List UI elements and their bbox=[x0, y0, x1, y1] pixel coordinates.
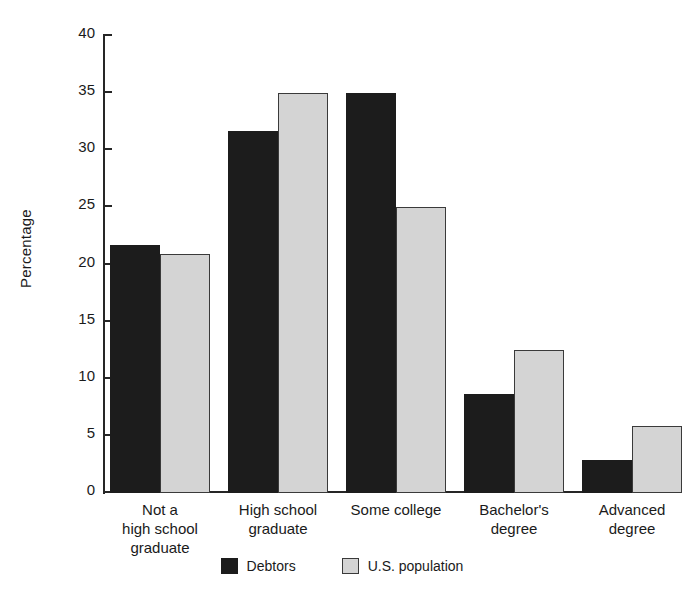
chart-legend: DebtorsU.S. population bbox=[0, 558, 684, 574]
bar-us-population bbox=[278, 93, 328, 493]
x-axis-label-line: Advanced bbox=[572, 500, 684, 519]
bar-debtors bbox=[346, 93, 396, 493]
bar-us-population bbox=[632, 426, 682, 493]
y-tick-label: 15 bbox=[78, 310, 95, 327]
y-tick-label: 20 bbox=[78, 253, 95, 270]
plot-area: 0510152025303540 bbox=[103, 36, 632, 493]
y-tick-label: 25 bbox=[78, 195, 95, 212]
bar-debtors bbox=[582, 460, 632, 493]
bar-debtors bbox=[110, 245, 160, 493]
x-axis-label-line: Not a bbox=[100, 500, 220, 519]
y-tick-label: 0 bbox=[87, 481, 95, 498]
x-axis-label-3: Some college bbox=[336, 500, 456, 519]
x-axis-label-line: high school bbox=[100, 519, 220, 538]
bar-us-population bbox=[514, 350, 564, 493]
bar-chart: Percentage 0510152025303540 Not ahigh sc… bbox=[0, 0, 684, 606]
y-tick-label: 40 bbox=[78, 24, 95, 41]
legend-item-us-population: U.S. population bbox=[342, 558, 464, 574]
legend-swatch-icon bbox=[221, 558, 238, 574]
bar-us-population bbox=[160, 254, 210, 493]
legend-swatch-icon bbox=[342, 558, 359, 574]
y-tick-label: 10 bbox=[78, 367, 95, 384]
legend-label: Debtors bbox=[247, 558, 296, 574]
x-axis-label-line: High school bbox=[218, 500, 338, 519]
bar-debtors bbox=[228, 131, 278, 493]
x-axis-category-labels: Not ahigh schoolgraduateHigh schoolgradu… bbox=[103, 500, 632, 560]
x-axis-label-line: Some college bbox=[336, 500, 456, 519]
x-axis-label-2: High schoolgraduate bbox=[218, 500, 338, 538]
y-tick-label: 35 bbox=[78, 81, 95, 98]
y-axis-title: Percentage bbox=[17, 179, 34, 319]
x-axis-label-line: Bachelor's bbox=[454, 500, 574, 519]
x-axis-label-1: Not ahigh schoolgraduate bbox=[100, 500, 220, 557]
legend-label: U.S. population bbox=[368, 558, 464, 574]
x-axis-label-line: graduate bbox=[100, 538, 220, 557]
legend-item-debtors: Debtors bbox=[221, 558, 296, 574]
bar-debtors bbox=[464, 394, 514, 493]
x-axis-label-line: graduate bbox=[218, 519, 338, 538]
x-axis-label-5: Advanceddegree bbox=[572, 500, 684, 538]
y-tick-label: 5 bbox=[87, 424, 95, 441]
x-axis-label-line: degree bbox=[572, 519, 684, 538]
y-tick-label: 30 bbox=[78, 138, 95, 155]
bars-layer bbox=[103, 36, 632, 493]
x-axis-label-4: Bachelor'sdegree bbox=[454, 500, 574, 538]
x-axis-label-line: degree bbox=[454, 519, 574, 538]
bar-us-population bbox=[396, 207, 446, 493]
